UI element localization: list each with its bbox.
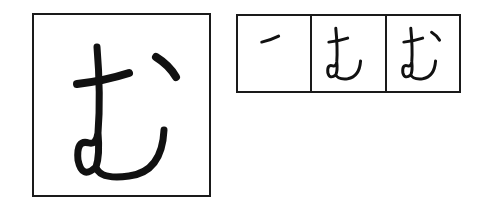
stroke-step-2 [312,16,386,91]
stroke-order-strip [236,14,461,93]
stroke-step-1 [238,16,312,91]
character-mu-glyph [34,15,209,195]
stroke-step-3 [387,16,459,91]
stroke-1-glyph [238,16,310,91]
strokes-1-2-glyph [312,16,384,91]
main-character-box [32,13,211,197]
strokes-1-3-glyph [387,16,459,91]
